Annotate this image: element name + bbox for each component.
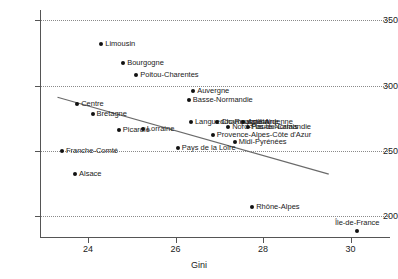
data-point-marker — [91, 112, 95, 116]
y-tick-mark-200 — [35, 216, 40, 217]
data-point-label: Poitou-Charentes — [140, 71, 198, 79]
data-point-marker — [250, 205, 254, 209]
y-tick-label: 300 — [370, 82, 398, 91]
scatter-chart: 200250300350 24262830 LimousinBourgogneP… — [0, 0, 398, 279]
data-point-label: Basse-Normandie — [193, 96, 253, 104]
data-point-marker — [117, 128, 121, 132]
x-tick-mark-26 — [176, 238, 177, 243]
gridline-y-200 — [41, 216, 390, 217]
data-point-label: Île-de-France — [335, 219, 380, 227]
data-point-label: Pays de la Loire — [182, 144, 236, 152]
x-tick-mark-28 — [263, 238, 264, 243]
data-point-marker — [191, 89, 195, 93]
data-point-label: Rhône-Alpes — [256, 203, 299, 211]
data-point-marker — [60, 149, 64, 153]
data-point-label: Centre — [81, 100, 104, 108]
y-tick-mark-300 — [35, 86, 40, 87]
x-axis-title: Gini — [0, 260, 398, 270]
data-point-marker — [75, 102, 79, 106]
data-point-marker — [189, 120, 193, 124]
y-tick-label: 350 — [370, 16, 398, 25]
y-tick-mark-350 — [35, 20, 40, 21]
x-tick-mark-30 — [351, 238, 352, 243]
y-tick-label: 250 — [370, 147, 398, 156]
data-point-marker — [141, 127, 145, 131]
x-tick-label: 30 — [336, 245, 366, 254]
data-point-label: Midi-Pyrénées — [239, 138, 287, 146]
data-point-marker — [176, 146, 180, 150]
data-point-label: Franche-Comté — [66, 147, 118, 155]
data-point-label: Auvergne — [197, 87, 229, 95]
x-tick-mark-24 — [88, 238, 89, 243]
data-point-marker — [187, 98, 191, 102]
x-tick-label: 24 — [73, 245, 103, 254]
data-point-label: Lorraine — [147, 125, 175, 133]
x-tick-label: 28 — [248, 245, 278, 254]
data-point-label: Bretagne — [97, 110, 127, 118]
data-point-marker — [211, 133, 215, 137]
y-tick-mark-250 — [35, 151, 40, 152]
data-point-label: Picardie — [123, 126, 150, 134]
data-point-label: Limousin — [105, 40, 135, 48]
gridline-y-350 — [41, 20, 390, 21]
data-point-label: Bourgogne — [127, 59, 164, 67]
data-point-label: Alsace — [79, 170, 102, 178]
x-tick-label: 26 — [161, 245, 191, 254]
